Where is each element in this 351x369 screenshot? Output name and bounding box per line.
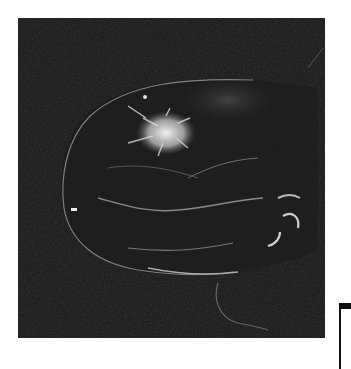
corner-marker: [339, 303, 351, 369]
mri-image: [18, 18, 325, 338]
mri-scan-graphic: [18, 18, 325, 338]
